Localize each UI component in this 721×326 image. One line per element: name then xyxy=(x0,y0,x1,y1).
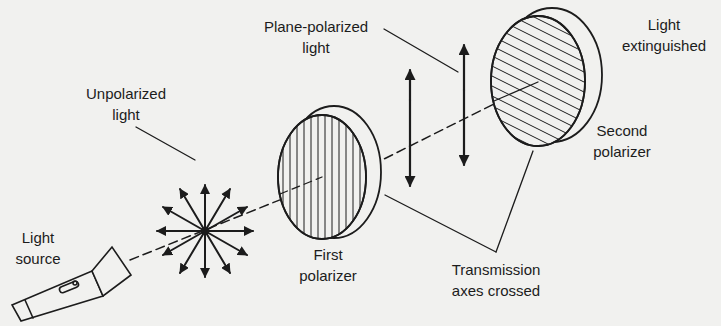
plane-polarized-arrows xyxy=(410,45,464,186)
label-light-source: Light source xyxy=(15,227,60,269)
label-unpolarized-light: Unpolarized light xyxy=(86,83,166,125)
unpolarized-star-icon xyxy=(157,185,253,277)
polarization-diagram: Plane-polarized light Unpolarized light … xyxy=(0,0,721,326)
second-polarizer xyxy=(480,0,602,200)
label-first-polarizer: First polarizer xyxy=(299,244,357,286)
label-light-extinguished: Light extinguished xyxy=(622,14,706,56)
label-transmission-axes-crossed: Transmission axes crossed xyxy=(452,259,541,301)
label-second-polarizer: Second polarizer xyxy=(593,120,651,162)
first-polarizer xyxy=(278,100,381,250)
label-plane-polarized-light: Plane-polarized light xyxy=(264,16,368,58)
